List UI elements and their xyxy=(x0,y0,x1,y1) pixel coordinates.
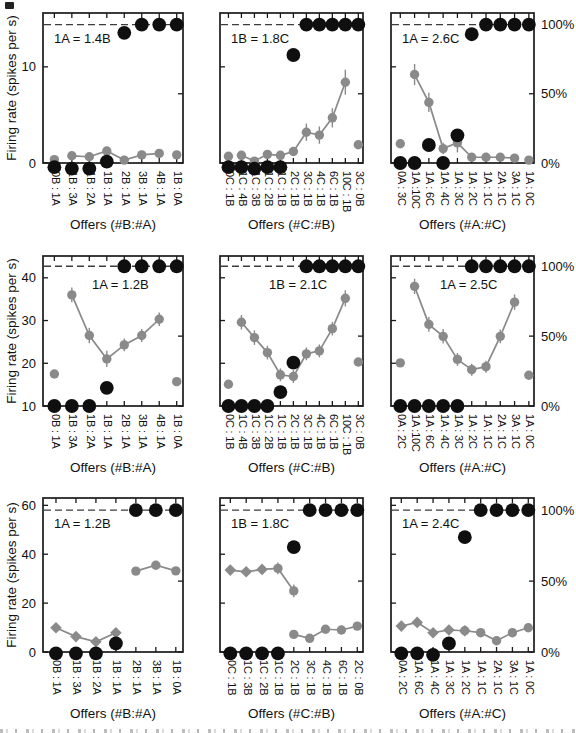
gray-point xyxy=(481,153,490,162)
black-choice-dot xyxy=(49,647,63,661)
x-tick-label: 0A : 3C xyxy=(396,171,408,206)
x-tick-label: 1C : 4B xyxy=(237,414,249,449)
gray-point xyxy=(496,153,505,162)
pct-label-100: 100% xyxy=(541,503,575,518)
gray-point xyxy=(137,150,146,159)
black-choice-dot xyxy=(271,647,285,661)
subplot-r3c2: 1B = 1.8C0C : 1B1C : 3B1C : 2B1C : 1B2C … xyxy=(220,498,365,721)
y-tick-label: 20 xyxy=(22,356,36,371)
figure-page: 1A = 1.4B0B : 1A1B : 3A1B : 2A1B : 1A2B … xyxy=(0,0,576,733)
subplot-r1c2: 1B = 1.8C0C : 1B1C : 4B1C : 3B1C : 2B1C … xyxy=(220,13,366,232)
gray-point xyxy=(302,128,311,137)
x-tick-label: 4C : 1B xyxy=(315,171,327,206)
x-tick-label: 2B : 1A xyxy=(120,171,132,207)
gray-point xyxy=(453,355,462,364)
black-choice-dot xyxy=(312,18,326,32)
black-choice-dot xyxy=(109,637,123,651)
pct-label-0: 0% xyxy=(541,399,560,414)
gray-point xyxy=(289,147,298,156)
gray-line xyxy=(56,628,116,642)
black-choice-dot xyxy=(89,647,103,661)
black-choice-dot xyxy=(465,259,479,273)
gray-point xyxy=(237,318,246,327)
gray-point xyxy=(337,625,346,634)
x-axis-title: Offers (#C:#B) xyxy=(248,460,335,475)
x-tick-label: 3B : 1A xyxy=(137,171,149,207)
gray-point xyxy=(321,625,330,634)
x-tick-label: 1A : 0C xyxy=(524,414,536,449)
plot-title: 1B = 2.1C xyxy=(269,277,327,292)
gray-point xyxy=(137,331,146,340)
gray-point xyxy=(467,153,476,162)
x-tick-label: 1C : 3B xyxy=(242,660,254,695)
plot-title: 1A = 2.6C xyxy=(402,31,459,46)
black-choice-dot xyxy=(522,259,536,273)
x-tick-label: 6C : 1B xyxy=(328,414,340,449)
x-tick-label: 3A : 1C xyxy=(510,414,522,449)
gray-point xyxy=(410,70,419,79)
subplot-r2c1: 1A = 1.2B0B : 1A1B : 3A1B : 2A1B : 1A2B … xyxy=(22,256,185,475)
black-choice-dot xyxy=(493,259,507,273)
black-choice-dot xyxy=(129,503,143,517)
black-choice-dot xyxy=(351,18,365,32)
black-choice-dot xyxy=(222,399,236,413)
x-tick-label: 6C : 1B xyxy=(337,660,349,695)
gray-point xyxy=(492,636,501,645)
x-tick-label: 1A : 6C xyxy=(424,414,436,449)
gray-point-diamond xyxy=(240,566,252,578)
gray-point xyxy=(524,155,533,164)
gray-point xyxy=(155,315,164,324)
x-tick-label: 2A : 1C xyxy=(496,171,508,206)
y-tick-label: 0 xyxy=(29,156,36,171)
x-tick-label: 0A : 2C xyxy=(396,414,408,449)
black-choice-dot xyxy=(521,503,535,517)
x-tick-label: 10C : 1B xyxy=(341,171,353,212)
gray-point xyxy=(172,150,181,159)
x-tick-label: 4B : 1A xyxy=(155,414,167,450)
x-tick-label: 1A : 2C xyxy=(467,414,479,449)
black-choice-dot xyxy=(65,399,79,413)
black-choice-dot xyxy=(508,259,522,273)
gray-point xyxy=(120,155,129,164)
black-choice-dot xyxy=(338,18,352,32)
gray-point xyxy=(289,630,298,639)
subplot-r1c1: 1A = 1.4B0B : 1A1B : 3A1B : 2A1B : 1A2B … xyxy=(22,13,185,232)
black-choice-dot xyxy=(135,259,149,273)
gray-point xyxy=(510,297,519,306)
x-axis-title: Offers (#B:#A) xyxy=(70,460,156,475)
black-choice-dot xyxy=(273,385,287,399)
gray-point xyxy=(410,282,419,291)
black-choice-dot xyxy=(350,503,364,517)
y-tick-label: 0 xyxy=(29,645,36,660)
x-tick-label: 1B : 0A xyxy=(171,660,183,696)
gray-point xyxy=(67,151,76,160)
black-choice-dot xyxy=(335,503,349,517)
black-choice-dot xyxy=(338,259,352,273)
gray-point xyxy=(424,320,433,329)
x-tick-label: 1A : 6C xyxy=(424,171,436,206)
gray-point xyxy=(172,377,181,386)
gray-point xyxy=(438,144,447,153)
gray-point-diamond xyxy=(427,627,439,639)
x-tick-label: 1C : 1B xyxy=(276,171,288,206)
black-choice-dot xyxy=(261,399,275,413)
x-axis-title: Offers (#A:#C) xyxy=(419,460,506,475)
gray-point xyxy=(328,113,337,122)
black-choice-dot xyxy=(286,48,300,62)
firing-rate-figure: 1A = 1.4B0B : 1A1B : 3A1B : 2A1B : 1A2B … xyxy=(0,0,576,733)
x-tick-label: 1B : 1A xyxy=(111,660,123,696)
gray-point xyxy=(396,358,405,367)
x-tick-label: 1A : 4C xyxy=(439,171,451,206)
gray-point xyxy=(354,140,363,149)
y-tick-label: 40 xyxy=(22,270,36,285)
x-tick-label: 2C : 1B xyxy=(289,171,301,206)
x-tick-label: 1B : 2A xyxy=(85,414,97,450)
y-axis-label-row1: Firing rate (spikes per s) xyxy=(4,15,19,161)
gray-point xyxy=(250,333,259,342)
subplot-r2c3: 1A = 2.5C0A : 2C1A :10C1A : 6C1A : 4C1A … xyxy=(391,256,575,475)
black-choice-dot xyxy=(117,259,131,273)
black-choice-dot xyxy=(465,27,479,41)
x-tick-label: 1B : 3A xyxy=(67,171,79,207)
x-tick-label: 1A : 0C xyxy=(524,171,536,206)
gray-point xyxy=(263,348,272,357)
